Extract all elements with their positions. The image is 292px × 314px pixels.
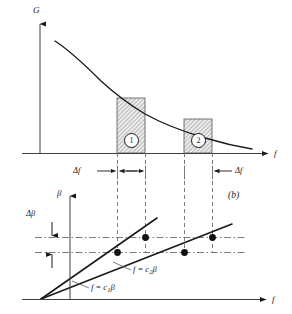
panel-a-x-axis-label: f [274, 149, 277, 158]
figure-container: G f 1 2 Δf Δf β Δβ (b) f = c2β f = c1β f [0, 0, 292, 314]
gain-curve [55, 41, 252, 149]
delta-beta-label: Δβ [26, 209, 35, 218]
delta-f-right-label: Δf [235, 166, 242, 175]
line-label-f-c1-beta: f = c1β [91, 283, 115, 293]
line-label-c2-suffix: β [152, 264, 156, 274]
panel-b-y-axis-label: β [57, 189, 61, 198]
line-label-c1-prefix: f = c [91, 282, 107, 292]
panel-a-y-axis-label: G [33, 6, 40, 15]
delta-f-left-label: Δf [73, 166, 80, 175]
panel-b-x-axis-label: f [272, 295, 275, 304]
band-label-2: 2 [191, 133, 206, 148]
band-label-1: 1 [124, 133, 139, 148]
line-label-f-c2-beta: f = c2β [133, 265, 157, 275]
figure-caption: (b) [228, 191, 239, 201]
line-label-c1-suffix: β [110, 282, 114, 292]
line-label-c2-prefix: f = c [133, 264, 149, 274]
